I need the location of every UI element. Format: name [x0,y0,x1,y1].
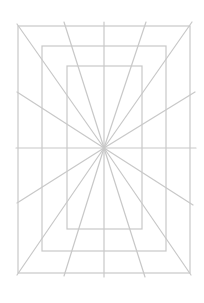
ray-top-right [104,22,146,148]
ray-top-right-corner [104,22,192,148]
radial-lines [17,22,195,277]
ray-bottom-right-corner [104,148,191,275]
ray-left-lower [17,148,104,203]
ray-top-left-corner [17,24,104,148]
perspective-grid-diagram [0,0,204,303]
ray-left-upper [17,92,104,148]
ray-bottom-left-corner [17,148,104,275]
ray-bottom-right [104,148,145,277]
ray-top-left [64,22,104,148]
ray-right-lower [104,148,193,205]
ray-right-upper [104,92,195,148]
ray-bottom-left [64,148,104,276]
